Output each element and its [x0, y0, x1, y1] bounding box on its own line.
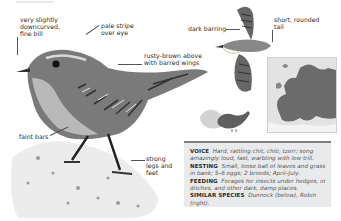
info-text: Hard, rattling chit, chiti, tzerr; song …	[190, 148, 314, 161]
info-nesting: NESTING Small, loose ball of leaves and …	[190, 163, 327, 178]
label-dark-barring: dark barring	[188, 25, 226, 32]
label-bill: very slightly downcurved, fine bill	[20, 16, 60, 38]
label-faint-bars: faint bars	[19, 133, 49, 140]
info-heading: FEEDING	[190, 178, 218, 184]
label-line: with barred wings	[144, 59, 202, 66]
label-legs: strong legs and feet	[146, 155, 172, 177]
faint-header-remnant	[16, 1, 54, 3]
label-upperparts: rusty-brown above with barred wings	[144, 52, 202, 66]
leader-bill	[17, 37, 18, 55]
label-line: short, rounded	[274, 16, 320, 23]
species-info-box: VOICE Hard, rattling chit, chiti, tzerr;…	[184, 141, 331, 207]
leader-legs	[131, 160, 145, 161]
leader-eye-stripe	[86, 25, 100, 35]
info-heading: NESTING	[190, 163, 218, 169]
label-line: very slightly	[20, 16, 60, 23]
label-line: tail	[274, 23, 320, 30]
label-line: fine bill	[20, 30, 60, 37]
leader-tail	[272, 30, 273, 42]
label-line: legs and	[146, 162, 172, 169]
label-line: strong	[146, 155, 172, 162]
label-tail: short, rounded tail	[274, 16, 320, 30]
info-heading: VOICE	[190, 148, 209, 154]
wren-flight-illustration	[215, 4, 275, 94]
info-voice: VOICE Hard, rattling chit, chiti, tzerr;…	[190, 148, 327, 163]
label-line: over eye	[101, 29, 134, 36]
label-line: downcurved,	[20, 23, 60, 30]
range-map	[267, 57, 337, 133]
label-line: rusty-brown above	[144, 52, 202, 59]
info-similar-species: SIMILAR SPECIES Dunnock (below), Robin (…	[190, 192, 327, 207]
leader-upperparts	[118, 64, 142, 65]
label-line: feet	[146, 169, 172, 176]
label-eye-stripe: pale stripe over eye	[101, 22, 134, 36]
info-heading: SIMILAR SPECIES	[190, 192, 245, 198]
similar-species-silhouettes	[198, 105, 258, 133]
label-line: pale stripe	[101, 22, 134, 29]
leader-dark-barring	[226, 29, 240, 30]
info-feeding: FEEDING Forages for insects under hedges…	[190, 178, 327, 193]
